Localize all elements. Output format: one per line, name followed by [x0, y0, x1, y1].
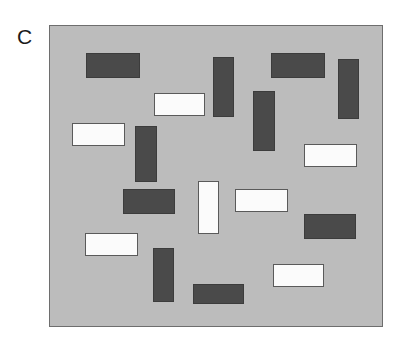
- stimulus-rect-light-horizontal: [304, 144, 357, 167]
- stimulus-rect-dark-horizontal: [271, 53, 325, 78]
- stimulus-rect-light-vertical: [198, 181, 219, 234]
- stimulus-rect-light-horizontal: [72, 123, 125, 146]
- stimulus-rect-dark-vertical: [153, 248, 174, 302]
- stimulus-rect-dark-vertical: [135, 126, 157, 182]
- stimulus-rect-dark-horizontal: [86, 53, 140, 78]
- stimulus-rect-dark-horizontal: [304, 214, 356, 239]
- stimulus-rect-dark-vertical: [253, 91, 275, 151]
- stimulus-rect-light-horizontal: [273, 264, 324, 287]
- stimulus-rect-light-horizontal: [154, 93, 205, 116]
- panel-letter-label: C: [17, 26, 32, 47]
- stimulus-rect-light-horizontal: [235, 189, 288, 212]
- stimulus-rect-light-horizontal: [85, 233, 138, 256]
- stimulus-rect-dark-vertical: [213, 57, 234, 117]
- stimulus-rect-dark-horizontal: [193, 284, 244, 304]
- stimulus-rect-dark-vertical: [338, 59, 359, 119]
- stimulus-rect-dark-horizontal: [123, 189, 175, 214]
- figure-panel-c: C: [0, 0, 401, 342]
- stimulus-array-panel: [49, 25, 383, 327]
